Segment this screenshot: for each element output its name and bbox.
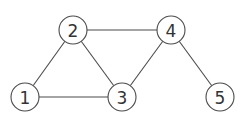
node-label: 1: [20, 88, 31, 108]
graph-diagram: 12345: [0, 0, 245, 113]
node-label: 3: [117, 88, 128, 108]
node-1: 1: [11, 83, 39, 111]
node-2: 2: [59, 16, 87, 44]
node-label: 2: [68, 21, 79, 41]
node-4: 4: [157, 16, 185, 44]
node-label: 4: [166, 21, 177, 41]
node-5: 5: [206, 83, 234, 111]
node-3: 3: [108, 83, 136, 111]
node-label: 5: [215, 88, 226, 108]
